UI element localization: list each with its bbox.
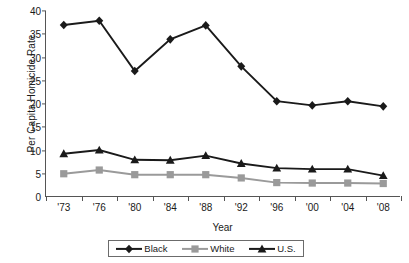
x-tick-label: '73 [57, 202, 70, 213]
legend-item-black[interactable]: Black [116, 243, 167, 254]
legend-marker-triangle-icon [255, 243, 269, 254]
data-point-triangle [258, 244, 267, 252]
x-tick-label: '88 [199, 202, 212, 213]
legend-item-u-s-[interactable]: U.S. [249, 243, 295, 254]
x-tick-label: '76 [93, 202, 106, 213]
x-axis-title: Year [45, 222, 400, 233]
legend-label: White [210, 243, 234, 254]
data-point-square [273, 179, 280, 186]
series-layer [46, 11, 401, 197]
data-point-square [96, 166, 103, 173]
x-tick-label: '96 [270, 202, 283, 213]
data-point-square [60, 170, 67, 177]
data-point-diamond [60, 21, 68, 30]
data-point-diamond [379, 102, 387, 111]
data-point-diamond [308, 101, 316, 110]
plot-area: 0510152025303540 '73'76'80'84'88'92'96'0… [45, 11, 400, 197]
series-u-s- [59, 146, 387, 179]
data-point-square [167, 171, 174, 178]
data-point-square [192, 245, 199, 252]
legend-swatch-triangle-icon [249, 244, 275, 253]
legend-swatch-diamond-icon [116, 244, 142, 253]
series-black [60, 16, 388, 110]
data-point-square [344, 179, 351, 186]
legend-label: U.S. [277, 243, 295, 254]
data-point-square [309, 179, 316, 186]
series-line [64, 21, 384, 107]
x-tick-label: '92 [235, 202, 248, 213]
legend-label: Black [144, 243, 167, 254]
legend-marker-square-icon [188, 243, 202, 254]
data-point-square [131, 171, 138, 178]
series-line [64, 170, 384, 183]
data-point-square [202, 171, 209, 178]
x-tick-mark [401, 196, 402, 201]
legend-swatch-square-icon [182, 244, 208, 253]
x-tick-label: '80 [128, 202, 141, 213]
y-tick-label: 0 [35, 192, 46, 203]
legend-item-white[interactable]: White [182, 243, 234, 254]
x-tick-label: '00 [306, 202, 319, 213]
data-point-diamond [125, 244, 133, 253]
chart-legend: BlackWhiteU.S. [108, 240, 304, 257]
x-tick-label: '84 [164, 202, 177, 213]
data-point-square [238, 174, 245, 181]
x-tick-label: '08 [377, 202, 390, 213]
legend-marker-diamond-icon [122, 243, 136, 254]
data-point-square [380, 180, 387, 187]
x-tick-label: '04 [341, 202, 354, 213]
data-point-diamond [344, 97, 352, 106]
homicide-rate-line-chart: Per Capita Homicide Rate 051015202530354… [0, 0, 409, 263]
